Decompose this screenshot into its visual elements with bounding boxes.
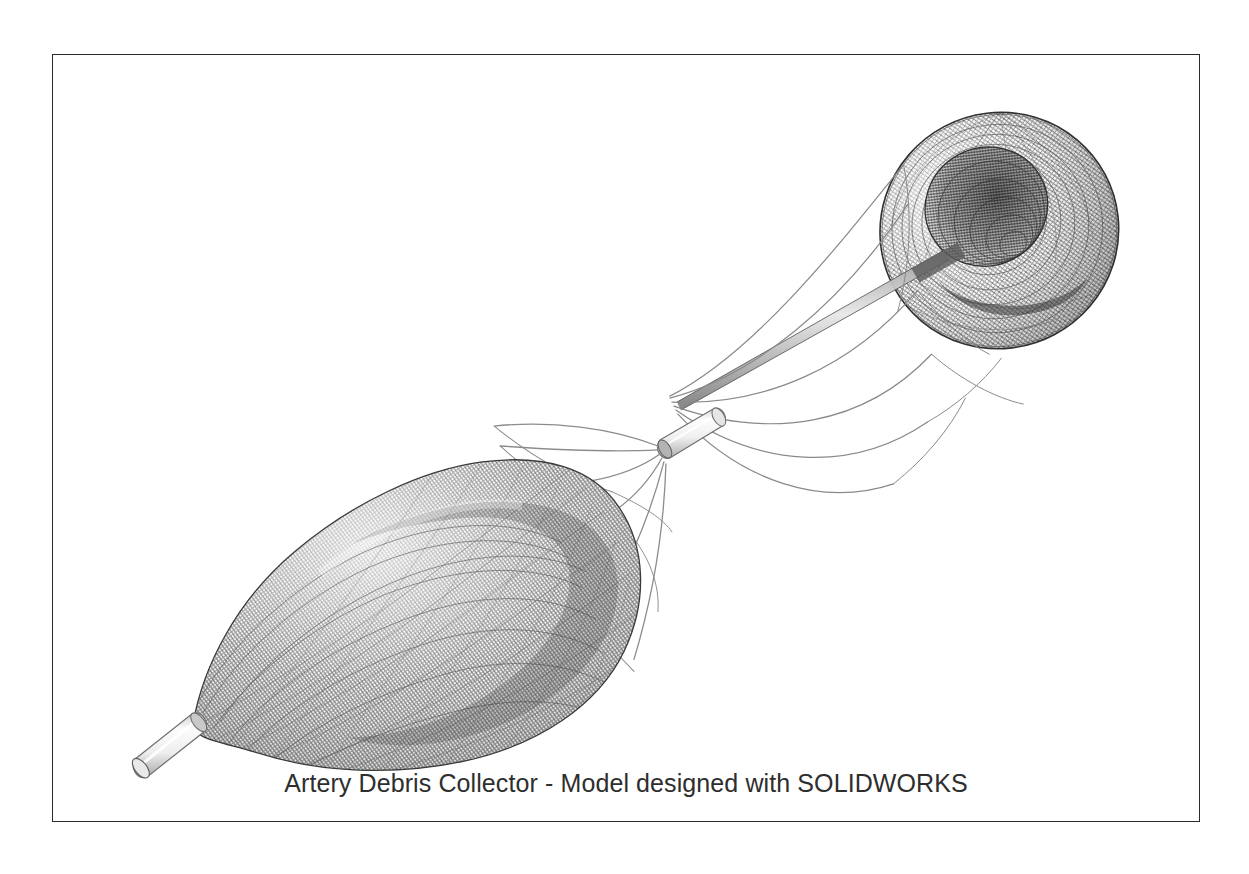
center-crimp-connector (655, 406, 728, 461)
figure-frame: Artery Debris Collector - Model designed… (52, 54, 1200, 822)
distal-funnel-basket (838, 70, 1160, 390)
guide-shaft (677, 243, 965, 411)
figure-caption: Artery Debris Collector - Model designed… (53, 769, 1199, 798)
proximal-collection-basket (173, 444, 672, 793)
cad-render-canvas (53, 55, 1199, 821)
figure-page: Artery Debris Collector - Model designed… (0, 0, 1249, 874)
